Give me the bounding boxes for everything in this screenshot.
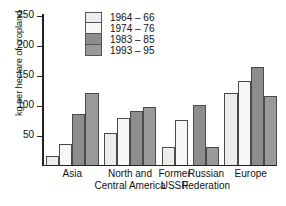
bar [104,133,117,164]
bar [206,147,219,164]
legend-label: 1964 – 66 [110,12,155,23]
y-tick-label-50: 50 [23,129,34,140]
y-tick-250: 250 [37,16,42,18]
bar [251,67,264,164]
y-tick-50: 50 [37,136,42,138]
x-label-line: Europe [208,168,286,180]
legend-swatch [85,23,102,34]
bar [193,105,206,165]
bar [130,111,143,164]
x-label-line: Federation [163,180,249,192]
bar [175,120,188,164]
x-axis-line [42,165,277,167]
y-tick-label-100: 100 [17,99,34,110]
bar [224,93,237,165]
y-axis-title: kg per hectare of cropland [13,0,24,134]
bar [117,118,130,165]
x-label-group: Europe [208,168,286,180]
x-axis-labels: AsiaNorth andCentral AmericaFormerUSSRRu… [42,168,282,204]
legend-swatch [85,12,102,23]
y-tick-150: 150 [37,76,42,78]
legend-swatch [85,34,102,45]
legend-item: 1974 – 76 [85,23,180,34]
legend-label: 1993 – 95 [110,45,155,56]
y-tick-100: 100 [37,106,42,108]
bar [143,107,156,165]
y-tick-label-200: 200 [17,39,34,50]
legend-item: 1993 – 95 [85,45,180,56]
y-tick-200: 200 [37,46,42,48]
y-tick-label-150: 150 [17,69,34,80]
legend-label: 1974 – 76 [110,23,155,34]
bar [264,96,277,165]
bar [85,93,98,165]
bar [72,114,85,165]
y-tick-label-250: 250 [17,9,34,20]
bar [59,144,72,165]
legend-swatch [85,45,102,56]
legend-label: 1983 – 85 [110,34,155,45]
bar-chart: kg per hectare of cropland 5010015020025… [0,0,286,206]
bar [238,81,251,165]
legend-item: 1964 – 66 [85,12,180,23]
legend-item: 1983 – 85 [85,34,180,45]
chart-legend: 1964 – 661974 – 761983 – 851993 – 95 [85,12,180,56]
bar [46,156,59,165]
bar [162,147,175,164]
